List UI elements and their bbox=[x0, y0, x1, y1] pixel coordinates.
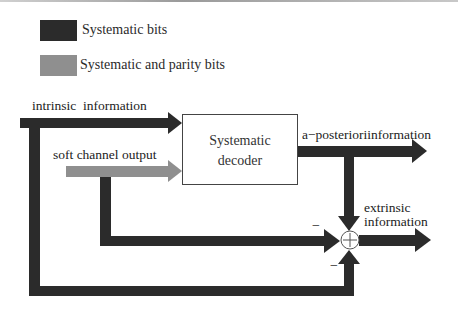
decoder-label-line2: decoder bbox=[183, 153, 297, 169]
soft-channel-arrow bbox=[66, 160, 182, 182]
extrinsic-arrow bbox=[359, 228, 431, 252]
systematic-decoder-block: Systematic decoder bbox=[182, 114, 298, 185]
extrinsic-information-label-line2: information bbox=[364, 214, 428, 230]
a-posteriori-branch bbox=[338, 157, 360, 231]
intrinsic-information-label: intrinsic information bbox=[32, 98, 147, 114]
minus-sign-left: − bbox=[312, 218, 320, 234]
decoder-label-line1: Systematic bbox=[183, 133, 297, 149]
soft-channel-output-label: soft channel output bbox=[53, 147, 156, 163]
summing-junction bbox=[341, 231, 359, 249]
a-posteriori-information-label: a−posterioriinformation bbox=[302, 127, 431, 143]
soft-channel-branch bbox=[100, 177, 340, 253]
intrinsic-arrow bbox=[20, 112, 182, 134]
minus-sign-bottom: − bbox=[330, 258, 338, 274]
